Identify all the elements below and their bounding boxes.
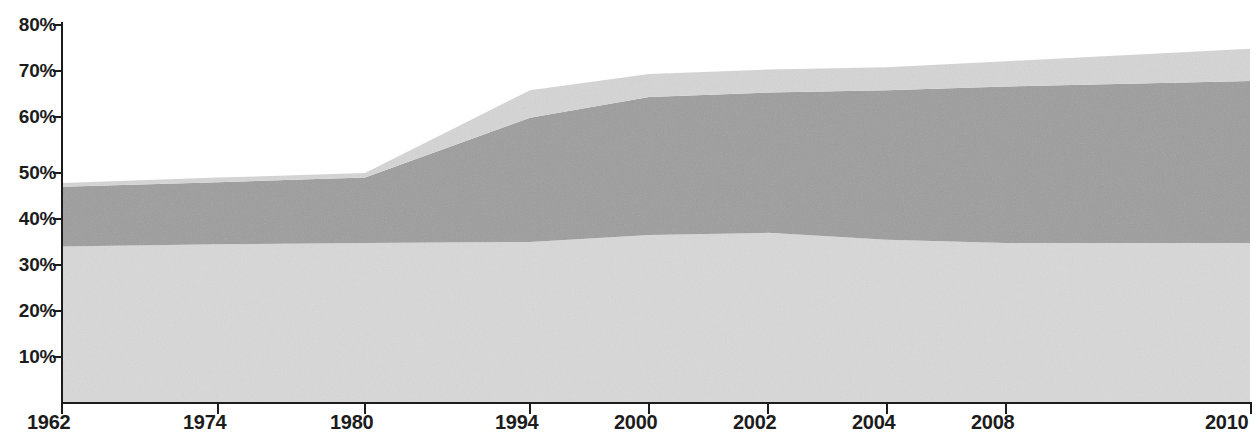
x-tick-label-1994: 1994 — [495, 412, 538, 432]
x-tick-label-2000: 2000 — [614, 412, 657, 432]
x-tick-label-2002: 2002 — [733, 412, 776, 432]
x-tick-label-1974: 1974 — [183, 412, 226, 432]
stacked-area-chart: 80% 70% 60% 50% 40% 30% 20% 10% 1962 197… — [0, 0, 1260, 447]
x-tick-label-1980: 1980 — [330, 412, 373, 432]
x-tick-label-2008: 2008 — [971, 412, 1014, 432]
x-tick-label-2004: 2004 — [852, 412, 895, 432]
x-axis-labels: 1962 1974 1980 1994 2000 2002 2004 2008 … — [0, 0, 1260, 447]
x-tick-label-2010: 2010 — [1205, 412, 1248, 432]
x-tick-label-1962: 1962 — [27, 412, 70, 432]
